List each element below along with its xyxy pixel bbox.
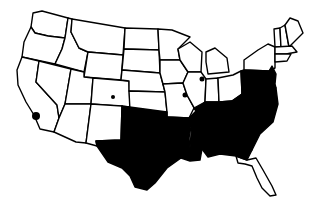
marker-st-louis-area	[183, 93, 188, 98]
state-ny	[244, 44, 275, 71]
state-me	[285, 18, 303, 47]
state-ct-ri	[275, 54, 291, 62]
state-co	[91, 78, 130, 107]
state-fl-peninsula	[236, 156, 276, 196]
state-mi	[206, 48, 229, 74]
marker-chicago-area	[200, 77, 205, 82]
marker-southern-california	[32, 112, 40, 120]
state-nd	[124, 28, 159, 50]
state-sd	[122, 49, 160, 73]
state-in	[205, 78, 219, 102]
marker-colorado	[111, 95, 115, 99]
state-wy	[84, 52, 123, 80]
us-map	[0, 0, 318, 202]
state-ma	[275, 46, 297, 54]
